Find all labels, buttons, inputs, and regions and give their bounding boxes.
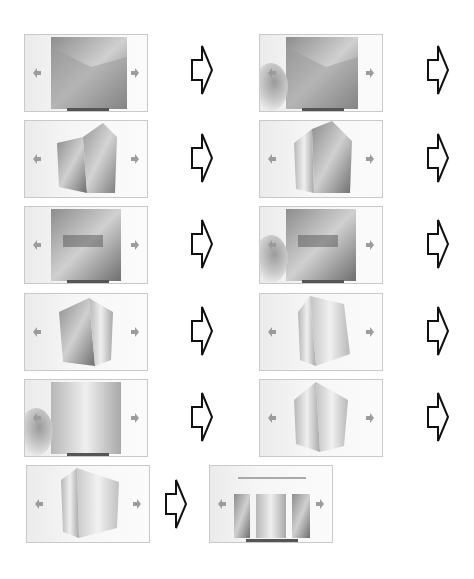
screen-frame-9 (24, 379, 148, 457)
screen-frame-1 (24, 34, 148, 112)
progress-bar (67, 280, 109, 283)
cube-image (55, 294, 119, 371)
screen-frame-7 (24, 293, 148, 371)
right-arrow-icon[interactable] (366, 154, 374, 164)
block-right-arrow-icon (190, 44, 214, 96)
screen-frame-3 (24, 120, 148, 198)
screen-frame-6 (259, 206, 383, 284)
cube-image (53, 121, 119, 198)
right-arrow-icon[interactable] (316, 499, 324, 509)
right-arrow-icon[interactable] (366, 413, 374, 423)
screen-frame-4 (259, 120, 383, 198)
block-right-arrow-icon (426, 132, 450, 184)
photo-image (286, 209, 356, 281)
block-right-arrow-icon (190, 391, 214, 443)
right-arrow-icon[interactable] (366, 240, 374, 250)
left-arrow-icon[interactable] (33, 413, 41, 423)
photo-image (286, 37, 358, 109)
screen-frame-8 (259, 293, 383, 371)
block-right-arrow-icon (190, 132, 214, 184)
cube-image (292, 121, 354, 198)
screen-frame-10 (259, 379, 383, 457)
right-arrow-icon[interactable] (366, 327, 374, 337)
block-right-arrow-icon (426, 305, 450, 357)
left-arrow-icon[interactable] (35, 499, 43, 509)
left-arrow-icon[interactable] (33, 240, 41, 250)
progress-bar (302, 280, 344, 283)
photo-image (51, 37, 127, 109)
photo-image (51, 209, 121, 281)
block-right-arrow-icon (426, 44, 450, 96)
progress-bar (67, 108, 109, 111)
block-right-arrow-icon (190, 305, 214, 357)
left-arrow-icon[interactable] (218, 499, 226, 509)
cube-image (288, 380, 354, 457)
block-right-arrow-icon (426, 218, 450, 270)
cube-image (57, 466, 123, 543)
right-arrow-icon[interactable] (131, 240, 139, 250)
screen-frame-2 (259, 34, 383, 112)
block-right-arrow-icon (426, 391, 450, 443)
left-arrow-icon[interactable] (268, 413, 276, 423)
screen-frame-12 (209, 465, 333, 543)
right-arrow-icon[interactable] (133, 499, 141, 509)
progress-bar (67, 453, 109, 456)
block-right-arrow-icon (164, 478, 188, 530)
left-arrow-icon[interactable] (268, 240, 276, 250)
photo-image (51, 382, 121, 454)
left-arrow-icon[interactable] (268, 68, 276, 78)
left-arrow-icon[interactable] (268, 327, 276, 337)
left-arrow-icon[interactable] (33, 154, 41, 164)
left-arrow-icon[interactable] (33, 68, 41, 78)
screen-frame-11 (26, 465, 150, 543)
right-arrow-icon[interactable] (366, 68, 374, 78)
right-arrow-icon[interactable] (131, 154, 139, 164)
progress-bar (302, 108, 344, 111)
cube-image (294, 294, 354, 371)
screen-frame-5 (24, 206, 148, 284)
gate-image (234, 474, 310, 538)
right-arrow-icon[interactable] (131, 68, 139, 78)
right-arrow-icon[interactable] (131, 327, 139, 337)
left-arrow-icon[interactable] (268, 154, 276, 164)
right-arrow-icon[interactable] (131, 413, 139, 423)
left-arrow-icon[interactable] (33, 327, 41, 337)
block-right-arrow-icon (190, 218, 214, 270)
progress-bar (246, 539, 298, 542)
